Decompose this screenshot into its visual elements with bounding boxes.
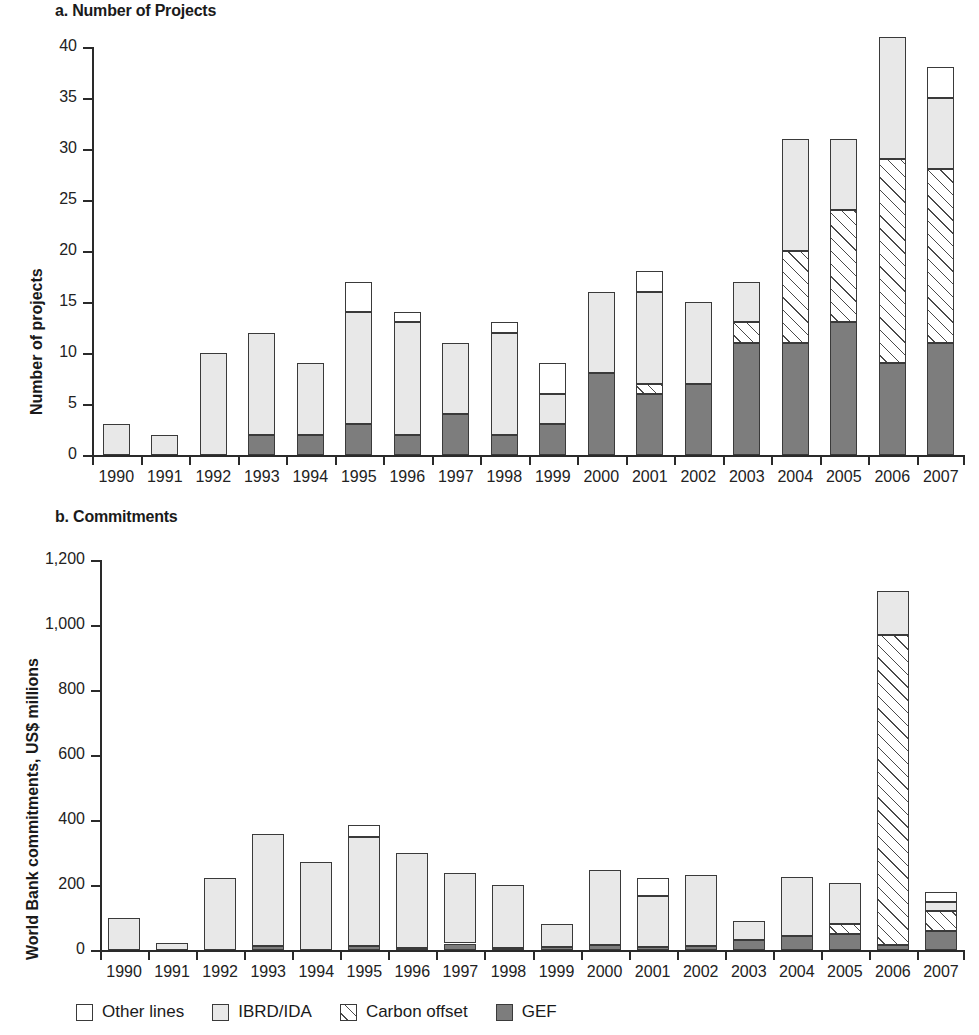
bar-segment-ibrd [636,292,663,384]
y-tick-label: 600 [25,745,85,763]
bar-segment-other [637,878,669,897]
x-tick-mark [677,952,679,960]
bar-segment-gef [877,945,909,950]
y-tick-label: 10 [17,343,77,361]
x-tick-mark [335,457,337,465]
bar-segment-ibrd [877,591,909,635]
x-tick-mark [196,952,198,960]
bar-segment-ibrd [588,292,615,374]
x-tick-mark [869,952,871,960]
x-tick-mark [725,952,727,960]
bar-segment-gef [685,946,717,950]
bar-segment-gef [782,343,809,455]
bar-segment-carbon [877,635,909,945]
x-tick-mark [388,952,390,960]
y-tick-mark [91,950,100,952]
bar-segment-carbon [830,210,857,322]
bar-segment-ibrd [733,282,760,323]
bar-segment-gef [252,946,284,950]
y-tick-label: 15 [17,292,77,310]
y-tick-label: 35 [17,88,77,106]
legend-item-ibrd[interactable]: IBRD/IDA [212,1002,312,1022]
x-tick-mark [340,952,342,960]
y-tick-label: 1,200 [25,550,85,568]
x-tick-mark [581,952,583,960]
bar-segment-gef [345,424,372,455]
bar-segment-gef [248,435,275,455]
x-tick-mark [286,457,288,465]
y-tick-label: 400 [25,810,85,828]
bar-segment-gef [879,363,906,455]
y-tick-mark [83,47,92,49]
x-tick-mark [484,952,486,960]
bar-segment-gef [927,343,954,455]
bar-segment-carbon [925,911,957,931]
x-tick-mark [868,457,870,465]
bar-segment-other [345,282,372,313]
x-tick-label: 2007 [906,963,976,981]
bar-segment-gef [491,435,518,455]
bar-segment-ibrd [348,837,380,946]
y-tick-label: 0 [17,445,77,463]
x-tick-mark [148,952,150,960]
x-tick-mark [963,457,965,465]
x-tick-mark [238,457,240,465]
bar-segment-carbon [829,924,861,934]
chart-legend: Other linesIBRD/IDACarbon offsetGEF [76,1002,557,1022]
bar-segment-gef [394,435,421,455]
bar-segment-ibrd [927,98,954,169]
y-tick-label: 40 [17,37,77,55]
x-tick-mark [92,457,94,465]
legend-label: IBRD/IDA [238,1002,312,1022]
bar-segment-gef [733,343,760,455]
x-tick-mark [432,457,434,465]
x-tick-mark [771,457,773,465]
bar-segment-gef [588,373,615,455]
bar-segment-ibrd [394,322,421,434]
y-tick-label: 0 [25,940,85,958]
y-tick-label: 20 [17,241,77,259]
bar-segment-ibrd [297,363,324,434]
bar-segment-ibrd [103,424,130,455]
x-tick-label: 2007 [906,468,976,486]
bar-segment-ibrd [151,435,178,455]
bar-segment-other [636,271,663,291]
bar-segment-ibrd [156,943,188,950]
y-tick-label: 5 [17,394,77,412]
bar-segment-ibrd [248,333,275,435]
bar-segment-gef [348,946,380,950]
bar-segment-gef [297,435,324,455]
y-tick-mark [83,149,92,151]
bar-segment-ibrd [539,394,566,425]
bar-segment-ibrd [829,883,861,924]
x-tick-mark [529,457,531,465]
bar-segment-other [491,322,518,332]
bar-segment-gef [925,931,957,950]
bar-segment-ibrd [204,878,236,950]
bar-segment-ibrd [396,853,428,949]
bar-segment-ibrd [782,139,809,251]
panel-b-title: b. Commitments [55,508,178,526]
y-tick-label: 1,000 [25,615,85,633]
legend-label: Carbon offset [366,1002,468,1022]
bar-segment-gef [539,424,566,455]
legend-item-carbon[interactable]: Carbon offset [340,1002,468,1022]
x-tick-mark [820,457,822,465]
bar-segment-ibrd [200,353,227,455]
x-tick-mark [626,457,628,465]
y-tick-mark [83,302,92,304]
bar-segment-other [539,363,566,394]
bar-segment-gef [396,948,428,950]
bar-segment-ibrd [879,37,906,159]
y-tick-mark [83,200,92,202]
bar-segment-gef [589,945,621,950]
legend-swatch-gef-icon [496,1004,513,1021]
y-axis-line [100,560,102,951]
bar-segment-gef [685,384,712,455]
y-tick-label: 25 [17,190,77,208]
bar-segment-gef [636,394,663,455]
bar-segment-ibrd [491,333,518,435]
legend-item-gef[interactable]: GEF [496,1002,557,1022]
legend-item-other[interactable]: Other lines [76,1002,184,1022]
x-tick-mark [436,952,438,960]
